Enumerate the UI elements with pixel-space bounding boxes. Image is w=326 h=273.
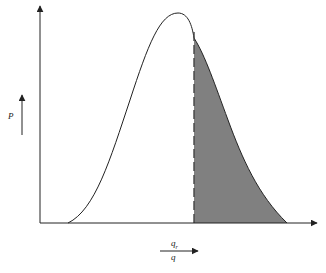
distribution-diagram (0, 0, 326, 273)
y-axis-label: P (8, 111, 14, 121)
x-axis-label-denominator: q (171, 252, 176, 262)
x-axis-label-numerator: qr (171, 238, 178, 250)
